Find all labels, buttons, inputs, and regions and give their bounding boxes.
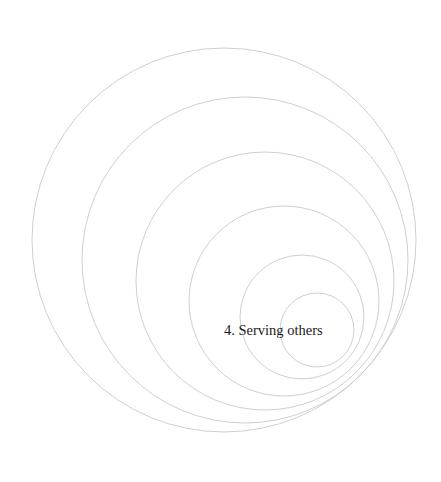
ring-5 [240,255,364,379]
ring-3 [136,152,394,410]
diagram-label: 4. Serving others [224,322,323,338]
ring-2 [82,97,408,423]
rings-group [32,48,416,432]
ring-4 [189,206,379,396]
nested-circles-diagram: 4. Serving others [0,0,441,482]
